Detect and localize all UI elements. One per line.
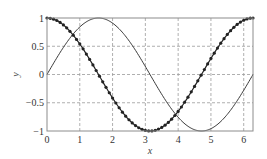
data-point-marker	[127, 118, 130, 121]
data-point-marker	[170, 118, 173, 121]
y-tick-label: 0	[39, 69, 44, 80]
y-axis-label: y	[10, 72, 21, 78]
x-axis-label: x	[147, 145, 153, 156]
data-point-marker	[140, 128, 143, 131]
data-point-marker	[121, 111, 124, 114]
y-tick-label: 1	[39, 13, 44, 24]
data-point-marker	[72, 34, 75, 37]
data-point-marker	[59, 21, 62, 24]
data-point-marker	[137, 126, 140, 129]
y-axis-ticks: 10.50−0.5−1	[26, 13, 44, 137]
data-point-marker	[186, 96, 189, 99]
data-point-marker	[203, 68, 206, 71]
x-tick-label: 4	[176, 134, 181, 145]
data-point-marker	[101, 80, 104, 83]
data-point-marker	[236, 23, 239, 26]
data-point-marker	[124, 115, 127, 118]
data-point-marker	[173, 114, 176, 117]
data-point-marker	[167, 121, 170, 124]
x-tick-label: 2	[110, 134, 115, 145]
x-tick-label: 0	[45, 134, 50, 145]
data-point-marker	[81, 47, 84, 50]
data-point-marker	[108, 91, 111, 94]
data-point-marker	[190, 90, 193, 93]
x-tick-label: 3	[143, 134, 148, 145]
data-point-marker	[196, 79, 199, 82]
data-point-marker	[62, 23, 65, 26]
data-point-marker	[163, 124, 166, 127]
data-point-marker	[75, 38, 78, 41]
data-point-marker	[219, 42, 222, 45]
y-tick-label: 0.5	[32, 41, 45, 52]
data-point-marker	[118, 106, 121, 109]
x-tick-label: 1	[77, 134, 82, 145]
data-point-marker	[144, 129, 147, 132]
data-point-marker	[104, 86, 107, 89]
x-tick-label: 6	[241, 134, 246, 145]
data-point-marker	[157, 128, 160, 131]
data-point-marker	[206, 62, 209, 65]
x-tick-label: 5	[208, 134, 213, 145]
data-point-marker	[160, 126, 163, 129]
data-point-marker	[85, 52, 88, 55]
data-point-marker	[55, 19, 58, 22]
data-point-marker	[98, 75, 101, 78]
data-point-marker	[183, 101, 186, 104]
data-point-marker	[216, 46, 219, 49]
data-point-marker	[91, 63, 94, 66]
data-point-marker	[222, 37, 225, 40]
y-tick-label: −1	[33, 126, 44, 137]
data-point-marker	[209, 57, 212, 60]
y-tick-label: −0.5	[26, 97, 44, 108]
x-axis-ticks: 0123456	[45, 134, 247, 145]
data-point-marker	[226, 33, 229, 36]
data-point-marker	[95, 69, 98, 72]
data-point-marker	[131, 121, 134, 124]
line-chart: 0123456 10.50−0.5−1 x y	[0, 0, 267, 159]
data-point-marker	[242, 19, 245, 22]
data-point-marker	[78, 42, 81, 45]
data-point-marker	[177, 110, 180, 113]
data-point-marker	[229, 29, 232, 32]
data-point-marker	[239, 21, 242, 24]
data-point-marker	[134, 124, 137, 127]
data-point-marker	[232, 26, 235, 29]
data-point-marker	[213, 52, 216, 55]
data-point-marker	[68, 30, 71, 33]
data-point-marker	[114, 101, 117, 104]
data-point-marker	[199, 74, 202, 77]
data-point-marker	[88, 58, 91, 61]
data-point-marker	[193, 85, 196, 88]
data-point-marker	[65, 26, 68, 29]
data-point-marker	[180, 105, 183, 108]
data-point-marker	[111, 96, 114, 99]
